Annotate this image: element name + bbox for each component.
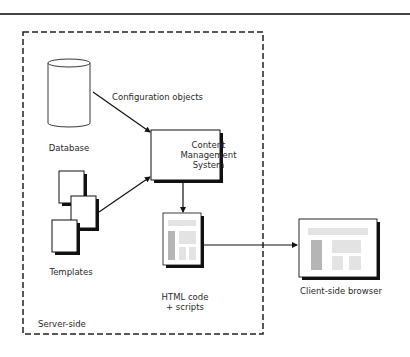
edge-templates-to-cms [99,177,150,212]
cms-label-line2: Management [176,150,241,160]
cms-label-line1: Content [176,140,241,150]
browser-window-icon [299,219,380,280]
database-label: Database [44,143,94,153]
html-label-line2: + scripts [157,302,213,312]
web-page-icon [163,213,204,268]
html-label-line1: HTML code [157,292,213,302]
cms-label-line3: System [176,160,241,170]
cms-label: Content Management System [176,140,241,170]
server-side-label: Server-side [38,319,86,329]
database-cylinder-icon [48,59,90,127]
edge-label-configuration-objects: Configuration objects [112,92,203,102]
templates-label: Templates [46,267,96,277]
stacked-documents-icon [52,171,99,255]
browser-label: Client-side browser [296,286,386,296]
